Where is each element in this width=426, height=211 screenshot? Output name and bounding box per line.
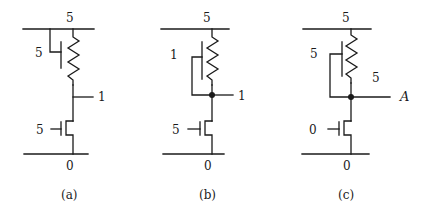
caption: (c) — [338, 188, 354, 202]
panel-a: 5 5 1 5 0 (a) — [23, 11, 106, 202]
pullup-gate-wire — [50, 29, 61, 52]
ground-label: 0 — [343, 159, 351, 173]
pulldown-transistor-channel — [205, 121, 212, 154]
pulldown-gate-label: 5 — [36, 123, 44, 137]
pulldown-gate-label: 0 — [309, 123, 317, 137]
ground-label: 0 — [66, 159, 74, 173]
panel-b: 5 1 1 5 0 (b) — [161, 11, 246, 202]
pullup-gate-label: 5 — [310, 47, 318, 61]
caption: (a) — [61, 188, 78, 202]
pulldown-gate-label: 5 — [172, 123, 180, 137]
ground-label: 0 — [204, 159, 212, 173]
nmos-inverter-diagrams: 5 5 1 5 0 (a) 5 1 1 5 — [0, 0, 426, 211]
supply-label: 5 — [66, 11, 74, 25]
pullup-resistor-icon — [346, 29, 357, 83]
output-label: 1 — [98, 90, 106, 104]
pulldown-transistor-channel — [66, 121, 73, 154]
output-value-label: 5 — [372, 71, 380, 85]
supply-label: 5 — [342, 11, 350, 25]
pulldown-transistor-channel — [344, 121, 351, 154]
caption: (b) — [199, 188, 216, 202]
output-label: 1 — [238, 89, 246, 103]
pullup-resistor-icon — [207, 29, 218, 85]
output-label: A — [399, 89, 409, 104]
panel-c: 5 5 5 A 0 0 (c) — [302, 11, 409, 202]
supply-label: 5 — [203, 11, 211, 25]
pullup-gate-label: 5 — [35, 46, 43, 60]
pullup-gate-label: 1 — [170, 48, 178, 62]
pullup-resistor-icon — [68, 29, 79, 85]
